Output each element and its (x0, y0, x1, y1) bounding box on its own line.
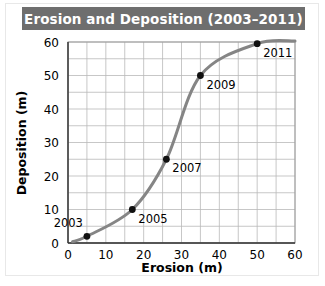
svg-text:50: 50 (44, 69, 59, 83)
svg-text:10: 10 (44, 203, 59, 217)
x-axis-title: Erosion (m) (141, 260, 222, 275)
svg-text:2005: 2005 (138, 212, 167, 226)
svg-text:20: 20 (44, 170, 59, 184)
svg-text:2003: 2003 (54, 216, 83, 230)
svg-text:0: 0 (51, 237, 59, 251)
plot-area: 20032005200720092011 0102030405060 01020… (0, 0, 325, 286)
chart-figure: Erosion and Deposition (2003–2011) 20032… (0, 0, 325, 286)
svg-text:60: 60 (44, 36, 59, 50)
svg-text:40: 40 (44, 103, 59, 117)
svg-text:60: 60 (287, 248, 302, 262)
gridlines (68, 42, 295, 243)
svg-text:2011: 2011 (263, 46, 292, 60)
svg-text:0: 0 (64, 248, 72, 262)
svg-text:50: 50 (250, 248, 265, 262)
y-axis-title: Deposition (m) (14, 91, 29, 196)
data-point-labels: 20032005200720092011 (54, 46, 293, 231)
svg-text:2007: 2007 (172, 161, 201, 175)
svg-text:30: 30 (44, 136, 59, 150)
svg-text:2009: 2009 (206, 78, 235, 92)
svg-text:10: 10 (98, 248, 113, 262)
